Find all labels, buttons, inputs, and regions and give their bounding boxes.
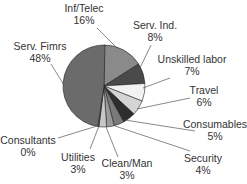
slice-label: Serv. Ind.8% — [133, 19, 177, 43]
slice-label-name: Unskilled labor — [158, 53, 227, 65]
slice-label: Consumables5% — [183, 118, 247, 142]
leader-line — [143, 78, 170, 88]
slice-label: Unskilled labor7% — [158, 53, 227, 77]
leader-line — [51, 64, 64, 85]
slice-label: Inf/Telec16% — [64, 2, 103, 26]
slice-label-percent: 48% — [14, 52, 67, 64]
slice-label: Serv. Fimrs48% — [14, 40, 67, 64]
leader-line — [106, 127, 118, 157]
leader-line — [137, 98, 190, 109]
slice-label-percent: 16% — [64, 14, 103, 26]
slice-label-percent: 5% — [183, 130, 247, 142]
slice-label-name: Clean/Man — [102, 157, 153, 169]
slice-label-percent: 3% — [61, 163, 95, 175]
leader-line — [90, 126, 99, 149]
slice-label-name: Travel — [190, 84, 219, 96]
pie-slice-serv-fimrs — [63, 45, 105, 127]
slice-label-percent: 8% — [133, 31, 177, 43]
slice-label-name: Consultants — [0, 134, 55, 146]
slice-label-name: Utilities — [61, 151, 95, 163]
slice-label: Travel6% — [190, 84, 219, 108]
slice-label-name: Security — [184, 152, 222, 164]
slice-label-name: Consumables — [183, 118, 247, 130]
pie-slices — [63, 45, 145, 127]
slice-label: Consultants0% — [0, 134, 55, 158]
slice-label-percent: 7% — [158, 65, 227, 77]
slice-label-percent: 6% — [190, 96, 219, 108]
slice-label-name: Inf/Telec — [64, 2, 103, 14]
slice-label-name: Serv. Ind. — [133, 19, 177, 31]
slice-label-percent: 0% — [0, 146, 55, 158]
slice-label: Security4% — [184, 152, 222, 176]
slice-label-percent: 3% — [102, 169, 153, 181]
slice-label-name: Serv. Fimrs — [14, 40, 67, 52]
leader-line — [115, 126, 190, 151]
leader-line — [58, 126, 97, 138]
leader-line — [139, 45, 151, 70]
slice-label: Utilities3% — [61, 151, 95, 175]
slice-label: Clean/Man3% — [102, 157, 153, 181]
slice-label-percent: 4% — [184, 164, 222, 176]
